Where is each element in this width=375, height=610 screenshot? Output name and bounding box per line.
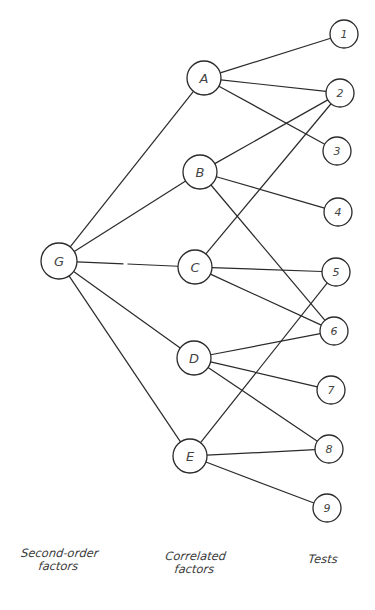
edge-E-T9 [206,462,314,503]
edge-G-D [74,272,181,349]
node-label: B [196,165,205,180]
node-label: 2 [337,87,344,100]
node-t7: 7 [317,376,345,404]
node-t1: 1 [330,20,358,48]
node-label: D [189,351,199,366]
edge-D-T6 [211,334,321,355]
node-t6: 6 [320,317,348,345]
node-g: G [41,243,77,279]
edge-G-C-part1 [77,262,123,264]
edge-A-T3 [219,86,325,144]
node-b: B [183,155,217,189]
node-label: 1 [341,28,348,41]
node-label: 4 [335,206,342,219]
column-label-correlated-factors: Correlated factors [144,550,247,576]
edge-C-T6 [210,274,321,325]
node-a: A [187,61,221,95]
edge-E-T8 [207,450,315,455]
node-label: 3 [334,145,341,158]
column-label-line: Tests [292,553,353,566]
column-label-tests: Tests [292,553,353,566]
node-t5: 5 [322,258,350,286]
node-label: 9 [324,502,331,515]
factor-diagram: GABCDE123456789 [0,0,375,610]
node-label: E [186,449,195,464]
node-label: 5 [333,266,340,279]
edge-D-T8 [208,368,317,442]
edge-C-T5 [212,268,322,272]
node-d: D [177,341,211,375]
edge-G-E [69,276,180,442]
node-t9: 9 [313,494,341,522]
edge-E-T5 [201,283,328,443]
edge-G-A [70,91,193,247]
column-label-line: factors [144,563,245,576]
node-t2: 2 [326,79,354,107]
node-label: A [199,71,209,86]
node-t3: 3 [323,137,351,165]
node-c: C [178,250,212,284]
node-t4: 4 [324,198,352,226]
node-t8: 8 [315,435,343,463]
edge-G-B [74,181,185,251]
edge-A-T1 [220,38,330,73]
edge-B-T4 [216,177,324,208]
node-label: 7 [328,384,335,397]
node-label: 8 [326,443,333,456]
column-label-line: factors [3,560,114,573]
edge-G-C-part2 [127,264,178,266]
edge-D-T7 [211,362,318,387]
edge-B-T2 [215,100,328,164]
column-label-second-order-factors: Second-order factors [3,547,116,573]
node-label: 6 [331,325,338,338]
node-label: C [190,260,200,275]
node-label: G [54,254,64,269]
edge-A-T2 [221,80,326,92]
node-e: E [173,439,207,473]
